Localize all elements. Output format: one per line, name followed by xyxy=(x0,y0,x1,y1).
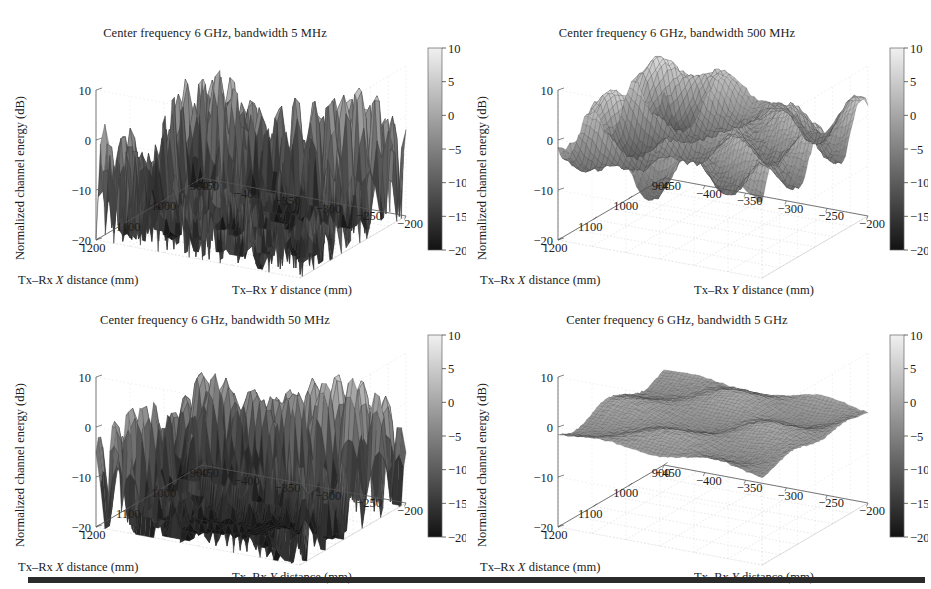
y-tick-label: −300 xyxy=(777,489,803,503)
colorbar: 1050−5−10−15−20 xyxy=(890,42,928,258)
colorbar-tick-label: 10 xyxy=(910,329,923,343)
z-tick-label: 10 xyxy=(541,84,554,98)
z-tick-label: −10 xyxy=(533,471,553,485)
y-tick-label: −400 xyxy=(234,474,260,488)
colorbar-tick-label: 5 xyxy=(448,362,454,376)
y-tick-label: −350 xyxy=(275,481,301,495)
colorbar: 1050−5−10−15−20 xyxy=(428,42,466,258)
colorbar-tick-label: −15 xyxy=(910,210,928,224)
z-tick-label: 10 xyxy=(541,371,554,385)
y-tick-label: −250 xyxy=(356,496,382,510)
z-axis-label: Normalized channel energy (dB) xyxy=(475,96,489,260)
surface-plot-panel: Center frequency 6 GHz, bandwidth 5 GHz1… xyxy=(462,305,928,589)
x-tick-label: 1000 xyxy=(151,486,176,500)
colorbar-tick-label: 0 xyxy=(448,396,454,410)
colorbar-tick-label: 5 xyxy=(910,362,916,376)
y-tick-label: −450 xyxy=(193,179,219,193)
y-axis-label: Tx–Rx Y distance (mm) xyxy=(232,283,352,297)
x-axis-label: Tx–Rx X distance (mm) xyxy=(18,273,138,287)
z-tick-label: 0 xyxy=(85,134,91,148)
y-tick-label: −450 xyxy=(655,179,681,193)
surface-plot-panel: Center frequency 6 GHz, bandwidth 5 MHz1… xyxy=(0,18,466,308)
z-axis-label: Normalized channel energy (dB) xyxy=(13,96,27,260)
z-axis-ticks: 100−10−20 xyxy=(71,84,102,248)
x-tick-label: 1100 xyxy=(116,507,141,521)
figure-root: Center frequency 6 GHz, bandwidth 5 MHz1… xyxy=(0,0,931,589)
z-tick-label: −10 xyxy=(71,471,91,485)
x-axis-label: Tx–Rx X distance (mm) xyxy=(18,560,138,574)
y-tick-label: −450 xyxy=(193,466,219,480)
z-axis-label: Normalized channel energy (dB) xyxy=(13,383,27,547)
colorbar: 1050−5−10−15−20 xyxy=(890,329,928,545)
y-tick-label: −250 xyxy=(356,209,382,223)
y-tick-label: −400 xyxy=(234,187,260,201)
z-tick-label: −10 xyxy=(533,184,553,198)
colorbar-tick-label: −20 xyxy=(910,244,928,258)
x-tick-label: 1200 xyxy=(543,241,568,255)
surface-plot-canvas: 100−10−20120011001000900−450−400−350−300… xyxy=(0,305,466,589)
y-axis-label: Tx–Rx Y distance (mm) xyxy=(694,283,814,297)
surface-mesh xyxy=(558,370,868,478)
surface-mesh xyxy=(96,71,406,277)
y-tick-label: −300 xyxy=(315,202,341,216)
surface-plot-canvas: 100−10−20120011001000900−450−400−350−300… xyxy=(462,18,928,308)
colorbar-tick-label: −5 xyxy=(448,143,461,157)
y-tick-label: −200 xyxy=(397,217,423,231)
x-tick-label: 1200 xyxy=(543,528,568,542)
colorbar-tick-label: 10 xyxy=(448,329,461,343)
y-tick-label: −350 xyxy=(737,481,763,495)
x-axis-ticks: 120011001000900 xyxy=(543,176,671,255)
surface-plot-canvas: 100−10−20120011001000900−450−400−350−300… xyxy=(0,18,466,308)
x-tick-label: 1200 xyxy=(81,528,106,542)
y-tick-label: −450 xyxy=(655,466,681,480)
z-axis-ticks: 100−10−20 xyxy=(533,371,564,535)
z-tick-label: 0 xyxy=(85,421,91,435)
z-tick-label: 10 xyxy=(79,84,92,98)
colorbar-tick-label: −5 xyxy=(448,430,461,444)
z-axis-label: Normalized channel energy (dB) xyxy=(475,383,489,547)
y-tick-label: −250 xyxy=(818,209,844,223)
x-axis-label: Tx–Rx X distance (mm) xyxy=(480,273,600,287)
x-tick-label: 1100 xyxy=(578,220,603,234)
y-tick-label: −200 xyxy=(397,504,423,518)
y-tick-label: −400 xyxy=(696,474,722,488)
x-axis-ticks: 120011001000900 xyxy=(543,463,671,542)
colorbar-tick-label: 10 xyxy=(448,42,461,56)
y-tick-label: −250 xyxy=(818,496,844,510)
colorbar: 1050−5−10−15−20 xyxy=(428,329,466,545)
y-tick-label: −400 xyxy=(696,187,722,201)
colorbar-tick-label: −5 xyxy=(910,430,923,444)
y-tick-label: −350 xyxy=(737,194,763,208)
colorbar-tick-label: −10 xyxy=(910,463,928,477)
y-tick-label: −200 xyxy=(859,504,885,518)
surface-mesh xyxy=(558,56,868,202)
surface-plot-panel: Center frequency 6 GHz, bandwidth 500 MH… xyxy=(462,18,928,308)
z-axis-ticks: 100−10−20 xyxy=(533,84,564,248)
y-tick-label: −300 xyxy=(315,489,341,503)
surface-plot-canvas: 100−10−20120011001000900−450−400−350−300… xyxy=(462,305,928,589)
z-tick-label: −10 xyxy=(71,184,91,198)
z-tick-label: 10 xyxy=(79,371,92,385)
colorbar-tick-label: −5 xyxy=(910,143,923,157)
y-tick-label: −300 xyxy=(777,202,803,216)
y-tick-label: −350 xyxy=(275,194,301,208)
colorbar-tick-label: 0 xyxy=(910,109,916,123)
z-tick-label: 0 xyxy=(547,134,553,148)
surface-plot-panel: Center frequency 6 GHz, bandwidth 50 MHz… xyxy=(0,305,466,589)
y-tick-label: −200 xyxy=(859,217,885,231)
x-tick-label: 1100 xyxy=(578,507,603,521)
colorbar-tick-label: 0 xyxy=(910,396,916,410)
x-tick-label: 1000 xyxy=(613,486,638,500)
colorbar-tick-label: 10 xyxy=(910,42,923,56)
x-tick-label: 1200 xyxy=(81,241,106,255)
z-tick-label: 0 xyxy=(547,421,553,435)
x-axis-label: Tx–Rx X distance (mm) xyxy=(480,560,600,574)
x-tick-label: 1000 xyxy=(613,199,638,213)
surface-mesh xyxy=(96,373,406,564)
colorbar-tick-label: 5 xyxy=(910,75,916,89)
x-tick-label: 1000 xyxy=(151,199,176,213)
bottom-divider-rule xyxy=(28,577,925,583)
x-tick-label: 1100 xyxy=(116,220,141,234)
colorbar-tick-label: −20 xyxy=(910,531,928,545)
colorbar-tick-label: −15 xyxy=(910,497,928,511)
